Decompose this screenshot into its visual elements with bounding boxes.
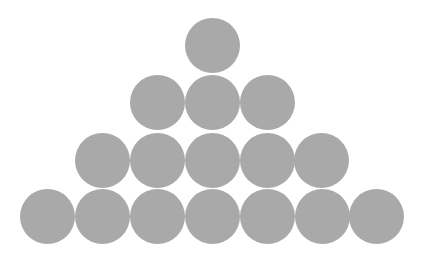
circle-row4-item7 bbox=[349, 189, 404, 244]
circle-row3-item3 bbox=[185, 133, 240, 188]
circle-row2-item3 bbox=[240, 75, 295, 130]
circle-row2-item1 bbox=[130, 75, 185, 130]
circle-pyramid-diagram bbox=[0, 0, 424, 259]
circle-row4-item1 bbox=[20, 189, 75, 244]
circle-row3-item2 bbox=[130, 133, 185, 188]
circle-row4-item6 bbox=[295, 189, 350, 244]
circle-row4-item4 bbox=[185, 189, 240, 244]
circle-row2-item2 bbox=[185, 75, 240, 130]
circle-row3-item1 bbox=[75, 133, 130, 188]
circle-row1-item1 bbox=[185, 18, 240, 73]
circle-row4-item2 bbox=[75, 189, 130, 244]
circle-row4-item5 bbox=[240, 189, 295, 244]
circle-row4-item3 bbox=[130, 189, 185, 244]
circle-row3-item5 bbox=[294, 133, 349, 188]
circle-row3-item4 bbox=[240, 133, 295, 188]
